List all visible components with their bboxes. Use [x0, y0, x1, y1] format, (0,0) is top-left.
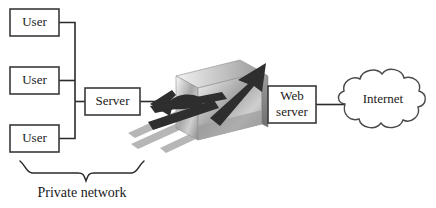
private-network-brace [20, 161, 144, 181]
user-2-label: User [22, 72, 47, 87]
web-server-node[interactable]: Web server [268, 86, 316, 123]
server-node[interactable]: Server [85, 88, 140, 115]
web-server-label-line1: Web [280, 88, 304, 103]
network-diagram-canvas: User User User Server [0, 0, 436, 208]
web-server-label-line2: server [276, 104, 308, 119]
link-user1-to-bus [59, 23, 75, 102]
private-network-links [59, 23, 85, 139]
user-node-2[interactable]: User [10, 67, 59, 94]
user-1-label: User [22, 14, 47, 29]
private-network-annotation: Private network [20, 161, 144, 200]
link-user3-to-bus [59, 102, 75, 139]
user-node-1[interactable]: User [10, 9, 59, 36]
diagram-svg: User User User Server [0, 0, 436, 208]
private-network-label: Private network [37, 185, 126, 200]
user-3-label: User [22, 130, 47, 145]
server-label: Server [96, 93, 131, 108]
firewall-wall [128, 60, 268, 153]
internet-label: Internet [363, 91, 404, 106]
user-node-3[interactable]: User [10, 125, 59, 152]
internet-cloud-node[interactable]: Internet [338, 69, 425, 127]
